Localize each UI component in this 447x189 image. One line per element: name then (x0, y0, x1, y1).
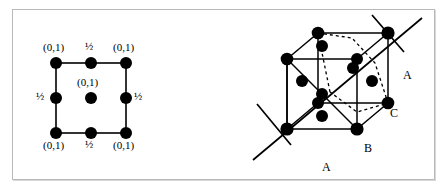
atom-edge-top (85, 57, 97, 69)
left-label-corner-top-left: (0,1) (43, 42, 64, 53)
fcc-atom-face-left (296, 75, 308, 87)
left-label-corner-bottom-left: (0,1) (43, 140, 64, 151)
left-label-corner-top-right: (0,1) (113, 42, 134, 53)
fcc-atom-corner-front-top-left (281, 53, 294, 66)
atom-edge-right (120, 92, 132, 104)
fcc-atom-corner-back-top-right (381, 26, 394, 39)
left-label-edge-top: ½ (85, 41, 93, 52)
atom-face-center (85, 92, 97, 104)
left-label-face-center: (0,1) (77, 77, 98, 88)
stacking-label-b: B (364, 142, 372, 154)
atom-corner-top-right (120, 57, 132, 69)
stacking-label-c: C (390, 107, 398, 119)
atom-corner-bottom-left (50, 127, 62, 139)
left-label-corner-bottom-right: (0,1) (113, 140, 134, 151)
fcc-atom-face-top (316, 40, 328, 52)
stacking-axis-line (253, 18, 422, 160)
figure-canvas (0, 0, 447, 189)
stacking-label-a-lower: A (322, 161, 331, 173)
left-label-edge-left: ½ (36, 91, 44, 102)
fcc-atom-face-back (347, 62, 359, 74)
left-label-edge-bottom: ½ (85, 139, 93, 150)
fcc-atom-face-bottom (316, 110, 328, 122)
figure-container: (0,1) ½ (0,1) ½ (0,1) ½ (0,1) ½ (0,1) A … (0, 0, 447, 189)
fcc-atom-face-right (366, 75, 378, 87)
fcc-atom-corner-back-top-left (312, 27, 325, 40)
fcc-atom-corner-front-bottom-left (280, 122, 293, 135)
fcc-atom-face-front (316, 88, 328, 100)
atom-corner-bottom-right (120, 127, 132, 139)
left-label-edge-right: ½ (134, 91, 142, 102)
atom-edge-left (50, 92, 62, 104)
atom-corner-top-left (50, 57, 62, 69)
right-panel-fcc-cell (253, 15, 422, 160)
stacking-label-a-upper: A (403, 69, 412, 81)
fcc-atom-corner-front-bottom-right (350, 122, 363, 135)
left-panel-square-lattice (50, 57, 132, 139)
